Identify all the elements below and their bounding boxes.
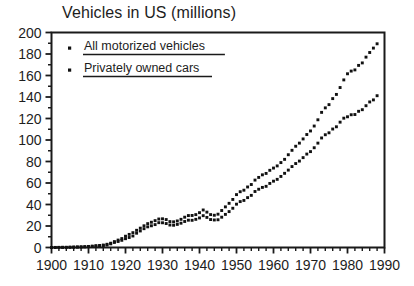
legend-marker-dot — [68, 69, 71, 72]
marker-privately-owned-cars — [54, 246, 57, 249]
marker-all-motorized-vehicles — [376, 42, 379, 45]
marker-all-motorized-vehicles — [202, 209, 205, 212]
marker-privately-owned-cars — [94, 245, 97, 248]
marker-privately-owned-cars — [361, 108, 364, 111]
marker-all-motorized-vehicles — [157, 218, 160, 221]
y-tick-label: 20 — [26, 218, 42, 234]
marker-privately-owned-cars — [213, 219, 216, 222]
marker-all-motorized-vehicles — [372, 47, 375, 50]
marker-all-motorized-vehicles — [302, 137, 305, 140]
marker-privately-owned-cars — [146, 225, 149, 228]
marker-all-motorized-vehicles — [239, 190, 242, 193]
x-tick-label: 1980 — [332, 257, 363, 273]
marker-privately-owned-cars — [353, 113, 356, 116]
marker-privately-owned-cars — [265, 185, 268, 188]
marker-privately-owned-cars — [316, 142, 319, 145]
marker-privately-owned-cars — [342, 117, 345, 120]
marker-all-motorized-vehicles — [335, 93, 338, 96]
marker-all-motorized-vehicles — [298, 142, 301, 145]
marker-privately-owned-cars — [331, 128, 334, 131]
marker-all-motorized-vehicles — [165, 218, 168, 221]
marker-all-motorized-vehicles — [305, 133, 308, 136]
marker-privately-owned-cars — [91, 245, 94, 248]
marker-all-motorized-vehicles — [283, 158, 286, 161]
marker-all-motorized-vehicles — [320, 111, 323, 114]
marker-all-motorized-vehicles — [365, 56, 368, 59]
marker-all-motorized-vehicles — [217, 213, 220, 216]
marker-privately-owned-cars — [87, 245, 90, 248]
marker-privately-owned-cars — [268, 182, 271, 185]
y-tick-label: 0 — [34, 240, 42, 256]
marker-all-motorized-vehicles — [353, 68, 356, 71]
marker-privately-owned-cars — [57, 246, 60, 249]
marker-all-motorized-vehicles — [265, 172, 268, 175]
marker-all-motorized-vehicles — [176, 220, 179, 223]
marker-privately-owned-cars — [205, 216, 208, 219]
marker-all-motorized-vehicles — [220, 209, 223, 212]
marker-all-motorized-vehicles — [257, 176, 260, 179]
marker-privately-owned-cars — [242, 199, 245, 202]
marker-privately-owned-cars — [272, 180, 275, 183]
marker-privately-owned-cars — [150, 224, 153, 227]
y-tick-label: 180 — [18, 46, 42, 62]
marker-all-motorized-vehicles — [324, 106, 327, 109]
marker-all-motorized-vehicles — [346, 72, 349, 75]
marker-privately-owned-cars — [176, 223, 179, 226]
series-privately-owned-cars — [50, 94, 379, 249]
marker-all-motorized-vehicles — [250, 183, 253, 186]
marker-privately-owned-cars — [357, 110, 360, 113]
x-tick-label: 1950 — [221, 257, 252, 273]
x-tick-label: 1990 — [369, 257, 400, 273]
legend-label: All motorized vehicles — [84, 39, 205, 53]
marker-all-motorized-vehicles — [128, 233, 131, 236]
marker-privately-owned-cars — [335, 125, 338, 128]
marker-privately-owned-cars — [131, 235, 134, 238]
marker-all-motorized-vehicles — [183, 216, 186, 219]
legend-label: Privately owned cars — [84, 61, 199, 75]
marker-privately-owned-cars — [372, 98, 375, 101]
marker-privately-owned-cars — [143, 227, 146, 230]
marker-all-motorized-vehicles — [272, 167, 275, 170]
marker-all-motorized-vehicles — [350, 70, 353, 73]
marker-all-motorized-vehicles — [143, 224, 146, 227]
marker-privately-owned-cars — [324, 133, 327, 136]
marker-privately-owned-cars — [98, 244, 101, 247]
marker-all-motorized-vehicles — [361, 61, 364, 64]
marker-privately-owned-cars — [168, 224, 171, 227]
marker-all-motorized-vehicles — [242, 189, 245, 192]
marker-privately-owned-cars — [257, 188, 260, 191]
marker-privately-owned-cars — [365, 104, 368, 107]
marker-privately-owned-cars — [69, 246, 72, 249]
x-tick-label: 1930 — [147, 257, 178, 273]
marker-privately-owned-cars — [231, 207, 234, 210]
marker-privately-owned-cars — [198, 216, 201, 219]
chart-plot-area: 020406080100120140160180200 190019101920… — [0, 0, 414, 286]
marker-all-motorized-vehicles — [309, 130, 312, 133]
marker-all-motorized-vehicles — [131, 231, 134, 234]
marker-privately-owned-cars — [246, 196, 249, 199]
marker-privately-owned-cars — [50, 246, 53, 249]
legend-marker-dot — [68, 47, 71, 50]
marker-privately-owned-cars — [106, 244, 109, 247]
y-tick-label: 40 — [26, 197, 42, 213]
marker-privately-owned-cars — [287, 169, 290, 172]
marker-privately-owned-cars — [191, 219, 194, 222]
marker-all-motorized-vehicles — [187, 214, 190, 217]
marker-privately-owned-cars — [276, 178, 279, 181]
marker-privately-owned-cars — [279, 175, 282, 178]
marker-privately-owned-cars — [291, 165, 294, 168]
marker-privately-owned-cars — [313, 146, 316, 149]
marker-privately-owned-cars — [239, 200, 242, 203]
marker-all-motorized-vehicles — [231, 198, 234, 201]
marker-all-motorized-vehicles — [368, 51, 371, 54]
x-axis-tick-labels: 1900191019201930194019501960197019801990 — [36, 257, 400, 273]
marker-privately-owned-cars — [165, 222, 168, 225]
marker-all-motorized-vehicles — [150, 221, 153, 224]
marker-privately-owned-cars — [339, 121, 342, 124]
marker-privately-owned-cars — [139, 230, 142, 233]
marker-all-motorized-vehicles — [287, 153, 290, 156]
marker-all-motorized-vehicles — [139, 227, 142, 230]
marker-privately-owned-cars — [172, 224, 175, 227]
marker-privately-owned-cars — [187, 219, 190, 222]
marker-all-motorized-vehicles — [316, 118, 319, 121]
